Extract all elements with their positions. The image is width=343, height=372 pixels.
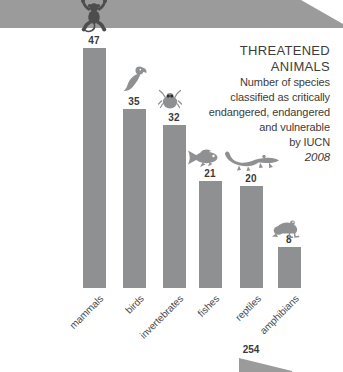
header-band: [0, 0, 343, 28]
chart-subtitle-line: Number of species: [209, 75, 330, 90]
bar-value-label: 35: [117, 96, 151, 107]
category-label-birds: birds: [123, 293, 146, 316]
crocodile-icon: [222, 147, 281, 172]
bar-amphibians: [278, 247, 301, 288]
frog-icon: [271, 217, 302, 238]
category-label-reptiles: reptiles: [233, 293, 263, 323]
chart-title-line-2: ANIMALS: [209, 59, 330, 75]
bar-value-label: 20: [234, 173, 268, 184]
bar-invertebrates: [163, 125, 186, 288]
bug-icon: [157, 89, 183, 109]
category-label-mammals: mammals: [68, 293, 106, 331]
chart-title-line-1: THREATENED: [209, 43, 330, 59]
category-label-fishes: fishes: [196, 293, 222, 319]
bird-icon: [121, 65, 149, 93]
bar-birds: [123, 109, 146, 288]
next-chart-bar-fragment: [239, 358, 292, 372]
bar-value-label: 32: [157, 112, 191, 123]
bar-fishes: [199, 181, 222, 288]
chart-subtitle-line: and vulnerable: [209, 120, 330, 135]
bar-mammals: [83, 48, 106, 288]
chart-subtitle-line: endangered, endangered: [209, 105, 330, 120]
infographic-page: THREATENED ANIMALS Number of species cla…: [0, 0, 343, 372]
bar-reptiles: [240, 186, 263, 288]
chart-subtitle-line: classified as critically: [209, 90, 330, 105]
bar-value-label: 47: [77, 35, 111, 46]
fish-icon: [187, 147, 221, 168]
category-label-amphibians: amphibians: [258, 293, 301, 336]
next-chart-value-label: 254: [236, 344, 266, 355]
monkey-icon: [77, 0, 111, 34]
